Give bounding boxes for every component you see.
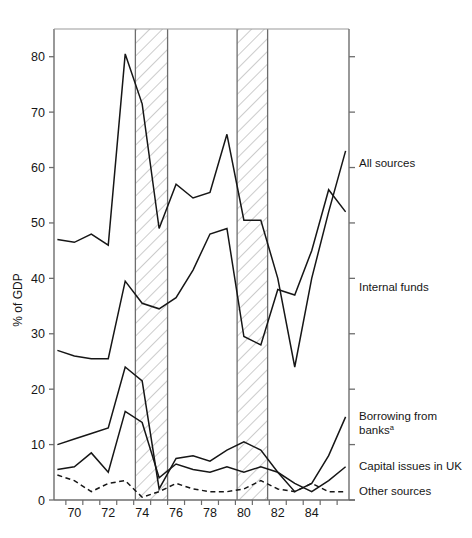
shaded-bands-group [135,29,267,500]
x-tick-label: 80 [237,506,251,520]
series-line-capital-issues-in-uk [57,411,345,491]
y-tick-label: 30 [31,327,45,341]
y-tick-label: 80 [31,50,45,64]
series-group [57,54,345,497]
y-tick-label: 40 [31,272,45,286]
y-tick-label: 70 [31,106,45,120]
legend-label-internal-funds: Internal funds [359,281,429,293]
recession-band-2 [237,29,268,500]
legend-label-capital-issues-in-uk: Capital issues in UK [359,460,462,472]
series-line-other-sources [57,475,345,497]
x-tick-label: 72 [101,506,115,520]
labels-group: All sourcesInternal fundsBorrowing fromb… [359,157,462,497]
series-line-all-sources [57,54,345,367]
y-tick-label: 60 [31,161,45,175]
line-chart: 010203040506070807072747678808284% of GD… [0,0,472,538]
x-tick-label: 78 [203,506,217,520]
series-line-internal-funds [57,190,345,359]
x-tick-label: 76 [169,506,183,520]
y-axis-title: % of GDP [11,273,25,326]
figure-title [44,0,444,8]
legend-label-all-sources: All sources [359,157,415,169]
x-tick-label: 74 [135,506,149,520]
y-tick-label: 10 [31,438,45,452]
series-line-borrowing-from-banks [57,367,345,492]
x-tick-label: 82 [271,506,285,520]
legend-label-other-sources: Other sources [359,485,431,497]
axes-group: 010203040506070807072747678808284% of GD… [11,29,355,520]
y-tick-label: 20 [31,383,45,397]
x-tick-label: 84 [305,506,319,520]
y-tick-label: 0 [38,494,45,508]
legend-footnote-marker: a [390,423,395,432]
x-tick-label: 70 [67,506,81,520]
legend-label-borrowing-from: Borrowing from [359,410,437,422]
legend-label-banks: banksa [359,423,395,436]
y-tick-label: 50 [31,216,45,230]
figure-panel: 010203040506070807072747678808284% of GD… [0,0,472,538]
